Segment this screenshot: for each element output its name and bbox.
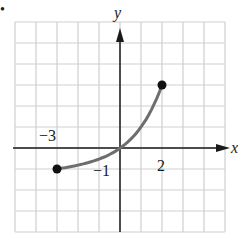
x-axis-arrow-icon — [216, 144, 230, 152]
tick-label-neg3: −3 — [39, 127, 56, 144]
tick-label-2: 2 — [157, 157, 165, 174]
x-axis-label: x — [230, 139, 238, 156]
y-axis-label: y — [112, 4, 122, 22]
endpoint-left — [53, 165, 62, 174]
endpoint-right — [158, 81, 167, 90]
bullet-marker: • — [0, 2, 5, 17]
y-axis — [116, 28, 124, 232]
y-axis-arrow-icon — [116, 28, 124, 42]
graph: • x y −3 2 −1 — [0, 0, 238, 237]
tick-label-neg1: −1 — [93, 162, 110, 179]
